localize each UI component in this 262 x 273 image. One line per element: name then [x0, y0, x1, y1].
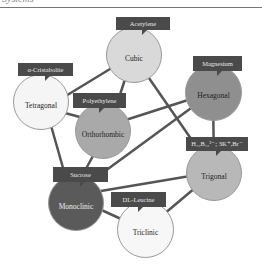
node-label: Tetragonal: [25, 95, 57, 110]
node-label: Trigonal: [201, 166, 227, 181]
node-tetragonal[interactable]: Tetragonal: [13, 74, 69, 130]
callout-text: Acetylene: [130, 20, 156, 27]
callout-trigonal-example: H₁₂B₁₂²⁻; 3K⁺,Br⁻: [186, 137, 248, 151]
callout-text: Magnesium: [202, 60, 233, 67]
node-trigonal[interactable]: Trigonal: [186, 145, 242, 201]
node-monoclinic[interactable]: Monoclinic: [48, 175, 104, 231]
node-label: Monoclinic: [59, 196, 94, 211]
callout-hexagonal-example: Magnesium: [193, 56, 242, 71]
callout-monoclinic-example: Sucrose: [53, 167, 108, 182]
node-cubic[interactable]: Cubic: [106, 27, 162, 83]
node-label: Cubic: [125, 48, 143, 63]
callout-text: DL-Leucine: [123, 196, 155, 203]
callout-text: Sucrose: [70, 171, 91, 178]
node-triclinic[interactable]: Triclinic: [117, 201, 174, 258]
callout-cubic-example: Acetylene: [116, 17, 170, 30]
callout-orthorhombic-example: Polyethylene: [73, 93, 126, 108]
node-label: Hexagonal: [197, 85, 230, 100]
callout-text: α-Cristabolite: [28, 66, 64, 73]
callout-tetragonal-example: α-Cristabolite: [18, 63, 73, 76]
node-label: Orthorhombic: [82, 124, 125, 139]
callout-text: H₁₂B₁₂²⁻; 3K⁺,Br⁻: [191, 140, 243, 148]
callout-triclinic-example: DL-Leucine: [111, 192, 166, 207]
node-label: Triclinic: [133, 222, 159, 237]
node-hexagonal[interactable]: Hexagonal: [185, 64, 242, 121]
callout-text: Polyethylene: [83, 97, 117, 104]
